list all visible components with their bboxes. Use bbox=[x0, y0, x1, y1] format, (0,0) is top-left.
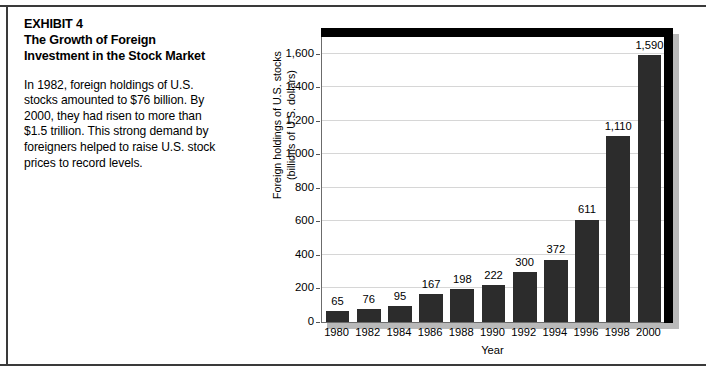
x-tick-label: 2000 bbox=[633, 326, 664, 338]
x-axis-tick-labels: 1980198219841986198819901992199419961998… bbox=[321, 326, 664, 342]
bar-slot: 1,590 bbox=[634, 37, 665, 322]
x-tick-label: 1996 bbox=[570, 326, 601, 338]
exhibit-body-text: In 1982, foreign holdings of U.S. stocks… bbox=[24, 78, 216, 172]
bar[interactable] bbox=[357, 309, 381, 322]
y-tick-mark bbox=[316, 54, 320, 55]
x-tick-label: 1982 bbox=[352, 326, 383, 338]
y-tick-label: 1,600 bbox=[262, 48, 314, 59]
y-tick-mark bbox=[316, 87, 320, 88]
y-tick-mark bbox=[316, 188, 320, 189]
x-tick-label: 1990 bbox=[477, 326, 508, 338]
plot-border-right bbox=[664, 28, 673, 323]
page-rule-top bbox=[0, 5, 706, 7]
bar-value-label: 167 bbox=[416, 279, 447, 290]
bar-slot: 65 bbox=[322, 37, 353, 322]
bar-value-label: 372 bbox=[540, 244, 571, 255]
bar-value-label: 198 bbox=[447, 274, 478, 285]
bar-slot: 611 bbox=[571, 37, 602, 322]
y-tick-label: 400 bbox=[262, 249, 314, 260]
y-tick-label: 600 bbox=[262, 216, 314, 227]
plot-frame: 6576951671982223003726111,1101,590 bbox=[321, 28, 673, 323]
y-tick-mark bbox=[316, 322, 320, 323]
bar-slot: 222 bbox=[478, 37, 509, 322]
bar-value-label: 300 bbox=[509, 257, 540, 268]
x-tick-label: 1998 bbox=[602, 326, 633, 338]
bar[interactable] bbox=[606, 136, 630, 322]
exhibit-page: EXHIBIT 4 The Growth of Foreign Investme… bbox=[0, 0, 706, 376]
bar-chart: Foreign holdings of U.S. stocks (billion… bbox=[232, 14, 694, 354]
x-tick-label: 1984 bbox=[383, 326, 414, 338]
bar-value-label: 1,110 bbox=[603, 121, 634, 132]
exhibit-title: EXHIBIT 4 The Growth of Foreign Investme… bbox=[24, 16, 216, 65]
y-tick-label: 800 bbox=[262, 182, 314, 193]
x-axis-title: Year bbox=[321, 344, 664, 356]
bar-value-label: 76 bbox=[353, 294, 384, 305]
page-rule-left bbox=[6, 5, 8, 366]
bar-value-label: 222 bbox=[478, 270, 509, 281]
x-tick-label: 1980 bbox=[321, 326, 352, 338]
bar-value-label: 611 bbox=[571, 204, 602, 215]
bar[interactable] bbox=[388, 306, 412, 322]
x-tick-label: 1994 bbox=[539, 326, 570, 338]
bar[interactable] bbox=[450, 289, 474, 322]
bar-slot: 167 bbox=[416, 37, 447, 322]
y-tick-mark bbox=[316, 121, 320, 122]
caption-column: EXHIBIT 4 The Growth of Foreign Investme… bbox=[24, 16, 216, 171]
plot-area: 6576951671982223003726111,1101,590 bbox=[321, 37, 664, 323]
bar-slot: 76 bbox=[353, 37, 384, 322]
bar-value-label: 1,590 bbox=[634, 40, 665, 51]
bar-slot: 1,110 bbox=[603, 37, 634, 322]
y-tick-mark bbox=[316, 154, 320, 155]
y-tick-mark bbox=[316, 288, 320, 289]
bar[interactable] bbox=[482, 285, 506, 322]
bar[interactable] bbox=[513, 272, 537, 322]
plot-border-top bbox=[321, 28, 673, 37]
bar-slot: 198 bbox=[447, 37, 478, 322]
y-tick-label: 1,200 bbox=[262, 115, 314, 126]
y-tick-label: 1,400 bbox=[262, 82, 314, 93]
y-axis-tick-labels: 02004006008001,0001,2001,4001,600 bbox=[262, 14, 314, 354]
bar[interactable] bbox=[575, 220, 599, 322]
page-rule-bottom bbox=[0, 364, 706, 366]
y-tick-label: 0 bbox=[262, 316, 314, 327]
x-tick-label: 1992 bbox=[508, 326, 539, 338]
bar-slot: 372 bbox=[540, 37, 571, 322]
bar[interactable] bbox=[638, 55, 662, 322]
bar[interactable] bbox=[419, 294, 443, 322]
bar-slot: 300 bbox=[509, 37, 540, 322]
bar[interactable] bbox=[544, 260, 568, 322]
bar-slot: 95 bbox=[384, 37, 415, 322]
x-tick-label: 1988 bbox=[446, 326, 477, 338]
y-tick-label: 1,000 bbox=[262, 149, 314, 160]
bars-layer: 6576951671982223003726111,1101,590 bbox=[322, 37, 664, 322]
bar-value-label: 65 bbox=[322, 296, 353, 307]
bar-value-label: 95 bbox=[384, 291, 415, 302]
y-tick-mark bbox=[316, 221, 320, 222]
y-tick-label: 200 bbox=[262, 283, 314, 294]
bar[interactable] bbox=[326, 311, 350, 322]
y-tick-mark bbox=[316, 255, 320, 256]
x-tick-label: 1986 bbox=[415, 326, 446, 338]
